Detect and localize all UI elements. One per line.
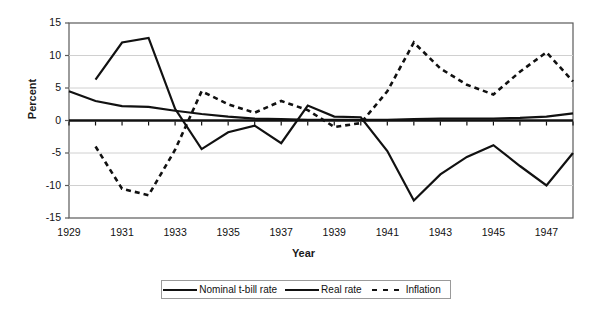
x-tick-label: 1947 — [524, 226, 568, 238]
y-tick-label: 0 — [27, 114, 61, 126]
plot-area — [0, 0, 607, 316]
legend-label: Inflation — [406, 284, 441, 295]
x-tick-label: 1941 — [365, 226, 409, 238]
y-tick-label: 15 — [27, 16, 61, 28]
legend-swatch-dashed-icon — [370, 285, 404, 295]
chart-legend: Nominal t-bill rateReal rateInflation — [161, 280, 451, 299]
x-tick-label: 1945 — [471, 226, 515, 238]
x-tick-label: 1943 — [418, 226, 462, 238]
y-tick-label: 10 — [27, 49, 61, 61]
legend-label: Real rate — [321, 284, 362, 295]
legend-item: Inflation — [370, 284, 449, 295]
legend-swatch-solid-icon — [163, 285, 197, 295]
legend-item: Real rate — [285, 284, 370, 295]
x-tick-label: 1937 — [259, 226, 303, 238]
y-tick-label: -5 — [27, 146, 61, 158]
y-tick-label: -10 — [27, 179, 61, 191]
x-tick-label: 1935 — [206, 226, 250, 238]
x-tick-label: 1933 — [153, 226, 197, 238]
legend-swatch-solid-icon — [285, 285, 319, 295]
legend-label: Nominal t-bill rate — [199, 284, 277, 295]
legend-item: Nominal t-bill rate — [163, 284, 285, 295]
x-tick-label: 1931 — [100, 226, 144, 238]
y-tick-label: 5 — [27, 81, 61, 93]
x-tick-label: 1929 — [47, 226, 91, 238]
chart-container: Percent Year 151050-5-10-15 192919311933… — [0, 0, 607, 316]
x-tick-label: 1939 — [312, 226, 356, 238]
y-tick-label: -15 — [27, 211, 61, 223]
